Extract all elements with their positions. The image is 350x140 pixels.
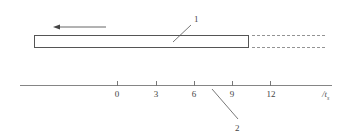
tick-label-0: 0 — [115, 90, 120, 99]
part-label-1: 1 — [194, 15, 199, 24]
part-label-2: 2 — [235, 124, 240, 133]
axis-ticks — [118, 81, 271, 86]
bar-part-1 — [35, 36, 249, 48]
tick-label-12: 12 — [267, 90, 276, 99]
axis-unit-label: /ts — [322, 90, 329, 101]
tick-label-6: 6 — [192, 90, 197, 99]
direction-arrow-icon — [53, 25, 106, 30]
tick-label-3: 3 — [154, 90, 159, 99]
tick-label-9: 9 — [230, 90, 235, 99]
axis-unit-sub: s — [327, 95, 329, 101]
diagram-canvas — [0, 0, 350, 140]
